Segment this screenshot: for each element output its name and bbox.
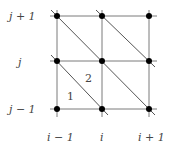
- node: [146, 106, 152, 112]
- node: [146, 13, 152, 19]
- grid-diagram: j + 1 j j − 1 i − 1 i i + 1 1 2: [0, 0, 169, 152]
- node: [99, 106, 105, 112]
- row-label-j-minus-1: j − 1: [6, 103, 36, 116]
- node: [54, 13, 60, 19]
- diagonal-upper: [96, 10, 155, 67]
- diagonal-lower: [51, 55, 108, 115]
- triangle-label-1: 1: [67, 90, 74, 103]
- col-label-i-minus-1: i − 1: [47, 131, 74, 144]
- node: [99, 58, 105, 64]
- row-label-j-plus-1: j + 1: [6, 10, 36, 23]
- node: [146, 58, 152, 64]
- node: [54, 58, 60, 64]
- node: [54, 106, 60, 112]
- col-label-i: i: [100, 131, 104, 144]
- node: [99, 13, 105, 19]
- triangle-label-2: 2: [85, 72, 92, 85]
- col-label-i-plus-1: i + 1: [138, 131, 165, 144]
- row-label-j: j: [15, 56, 22, 69]
